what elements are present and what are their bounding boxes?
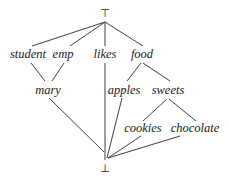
edge-apples-bottom <box>107 98 122 158</box>
node-emp: emp <box>53 47 74 61</box>
top-symbol: ⊤ <box>100 7 110 20</box>
node-mary: mary <box>35 83 61 97</box>
edge-chocolate-bottom <box>108 136 180 158</box>
edge-mary-bottom <box>49 98 104 152</box>
node-chocolate: chocolate <box>171 121 220 135</box>
node-cookies: cookies <box>124 121 162 135</box>
bottom-symbol: ⊥ <box>100 162 110 175</box>
edge-sweets-chocolate <box>169 99 196 121</box>
node-likes: likes <box>94 47 117 61</box>
edge-sweets-cookies <box>143 99 167 121</box>
edge-student-mary <box>31 63 45 81</box>
edge-emp-mary <box>52 63 64 81</box>
node-apples: apples <box>108 83 141 97</box>
node-student: student <box>10 47 47 61</box>
edge-top-student <box>32 22 105 46</box>
edge-food-sweets <box>143 63 170 81</box>
node-food: food <box>131 47 154 61</box>
edge-food-apples <box>127 63 141 81</box>
edge-top-emp <box>70 22 105 46</box>
edge-cookies-bottom <box>108 136 141 158</box>
edge-top-food <box>105 22 143 46</box>
node-sweets: sweets <box>152 83 185 97</box>
lattice-diagram: ⊤ ⊥ student emp likes food mary apples s… <box>0 0 229 180</box>
